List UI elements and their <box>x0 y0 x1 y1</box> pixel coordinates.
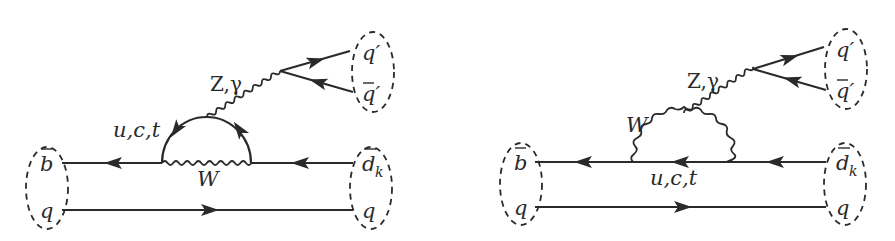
label-q-prime-bar: q′ <box>836 79 854 103</box>
label-w: W <box>626 113 650 137</box>
label-b: b <box>514 151 527 175</box>
arrow-icon <box>308 74 329 90</box>
label-q-in: q <box>514 196 527 220</box>
label-q-out: q <box>836 196 849 220</box>
label-z-gamma: Z,γ <box>687 69 719 93</box>
label-loop-quarks: u,c,t <box>113 118 161 142</box>
label-b: b <box>40 152 53 176</box>
label-w: W <box>197 167 221 191</box>
label-q-out: q <box>362 199 375 223</box>
label-d: d <box>836 151 849 175</box>
feynman-diagrams: b q d k q q′ q′ u,c,t W Z,γ b <box>0 0 895 241</box>
arrow-icon <box>306 53 327 69</box>
label-d: d <box>362 152 375 176</box>
label-z-gamma: Z,γ <box>210 72 242 96</box>
label-q-prime: q′ <box>836 38 854 62</box>
arrow-icon <box>780 50 801 67</box>
arrow-icon <box>229 118 249 140</box>
label-loop-quarks: u,c,t <box>650 166 698 190</box>
label-q-prime-bar: q′ <box>362 82 380 106</box>
diagram-right: b q d k q q′ q′ u,c,t W Z,γ <box>500 29 867 225</box>
arrow-icon <box>782 72 803 88</box>
label-q-in: q <box>40 199 53 223</box>
diagram-left: b q d k q q′ q′ u,c,t W Z,γ <box>26 32 394 229</box>
label-d-sub: k <box>849 163 857 179</box>
label-d-sub: k <box>375 164 383 180</box>
label-q-prime: q′ <box>362 41 380 65</box>
w-boson-propagator <box>162 161 252 165</box>
